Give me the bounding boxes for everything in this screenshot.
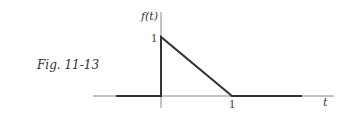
y-tick-label-1: 1 <box>151 31 157 45</box>
function-curve <box>116 37 302 96</box>
x-axis-label: t <box>323 96 328 109</box>
y-axis-label: f(t) <box>140 10 158 23</box>
figure-11-13: Fig. 11-13 f(t) t 1 1 <box>0 0 343 116</box>
figure-caption: Fig. 11-13 <box>36 58 99 72</box>
x-tick-label-1: 1 <box>229 97 235 111</box>
